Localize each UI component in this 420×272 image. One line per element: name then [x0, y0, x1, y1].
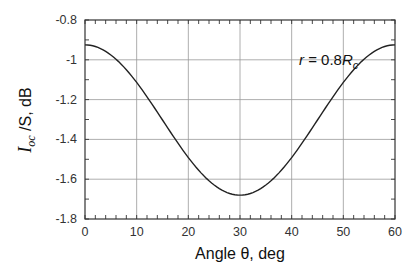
x-axis-title: Angle θ, deg	[195, 245, 285, 262]
y-axis-title: Ioc /S, dB	[15, 87, 38, 153]
y-tick-label: -0.8	[55, 13, 77, 27]
x-tick-label: 20	[181, 225, 195, 239]
y-axis-title-subscript: oc	[24, 135, 38, 147]
annotation-subscript: c	[353, 59, 359, 71]
x-tick-label: 10	[130, 225, 144, 239]
x-tick-label: 40	[285, 225, 299, 239]
annotation-R: R	[342, 51, 353, 68]
y-tick-label: -1.4	[55, 132, 77, 146]
x-tick-label: 0	[82, 225, 89, 239]
x-tick-label: 30	[233, 225, 247, 239]
y-tick-label: -1	[66, 53, 77, 67]
y-tick-label: -1.8	[55, 212, 77, 226]
y-tick-label: -1.2	[55, 93, 77, 107]
y-axis-tick-labels: -0.8-1-1.2-1.4-1.6-1.8	[55, 13, 77, 226]
annotation-eq: = 0.8	[304, 51, 342, 68]
x-tick-label: 60	[388, 225, 402, 239]
line-chart: 0102030405060 -0.8-1-1.2-1.4-1.6-1.8 Ang…	[0, 0, 420, 272]
x-tick-label: 50	[336, 225, 350, 239]
y-axis-title-rest: /S, dB	[17, 87, 34, 135]
y-tick-label: -1.6	[55, 172, 77, 186]
x-axis-tick-labels: 0102030405060	[82, 225, 402, 239]
curve-annotation: r = 0.8Rc	[299, 51, 359, 71]
